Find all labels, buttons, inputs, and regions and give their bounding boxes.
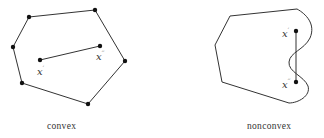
nonconvex-set: x′ x′′ bbox=[215, 9, 312, 103]
convex-label-x1: x′ bbox=[37, 64, 45, 77]
convexity-diagram: x′ x′′ x′ x′′ bbox=[0, 0, 324, 138]
nonconvex-shape bbox=[215, 9, 312, 103]
convex-point-x1 bbox=[38, 58, 42, 62]
convex-polygon bbox=[13, 10, 125, 104]
convex-caption: convex bbox=[47, 121, 76, 131]
convex-label-x2: x′′ bbox=[96, 49, 105, 62]
convex-segment bbox=[40, 46, 100, 60]
convex-vertices bbox=[11, 8, 127, 106]
nonconvex-caption: nonconvex bbox=[247, 121, 291, 131]
convex-set: x′ x′′ bbox=[11, 8, 127, 106]
nonconvex-point-x2 bbox=[294, 80, 298, 84]
convex-point-x2 bbox=[98, 44, 102, 48]
nonconvex-label-x2: x′′ bbox=[282, 77, 291, 90]
nonconvex-point-x1 bbox=[294, 29, 298, 33]
nonconvex-label-x1: x′ bbox=[282, 26, 290, 39]
